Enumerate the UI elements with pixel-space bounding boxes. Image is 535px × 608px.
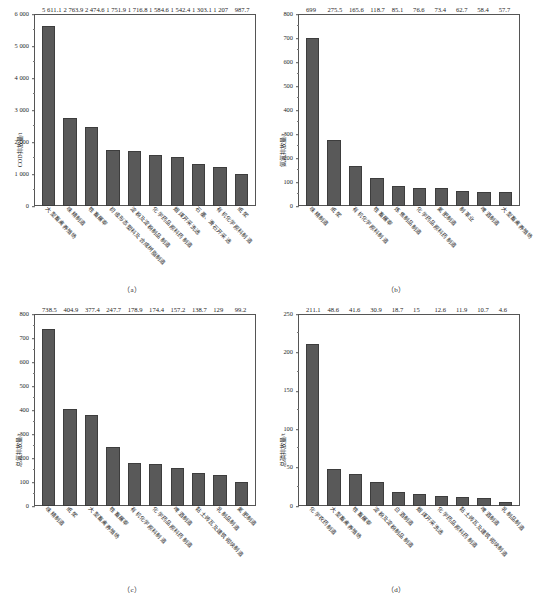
bar-value-label: 11.9 [456, 306, 467, 313]
bar[interactable]: 18.7 [392, 492, 405, 506]
bar-value-label: 1 584.6 [149, 6, 169, 13]
bar-value-label: 73.4 [435, 6, 447, 13]
x-tick-label: 纸浆 [330, 206, 343, 219]
bar[interactable]: 15 [413, 494, 426, 506]
bar-value-label: 118.7 [370, 6, 385, 13]
bar[interactable]: 85.1 [392, 186, 405, 206]
bar[interactable]: 2 763.9 [63, 118, 76, 206]
bar-slot: 41.6 [345, 314, 366, 506]
bar[interactable]: 178.9 [128, 463, 141, 506]
bar[interactable]: 99.2 [235, 482, 248, 506]
bar-slot: 174.4 [145, 314, 166, 506]
x-tick-slot: 啤酒制造 [166, 506, 187, 584]
x-tick-slot: 大型畜禽养殖场 [81, 506, 102, 584]
bar[interactable]: 404.9 [63, 409, 76, 506]
bar[interactable]: 48.6 [327, 469, 340, 506]
bar-value-label: 129 [213, 306, 223, 313]
x-tick-slot: 淀粉及淀粉制品制造 [366, 506, 387, 584]
bar[interactable]: 987.7 [235, 174, 248, 206]
bar[interactable]: 118.7 [370, 178, 383, 206]
x-tick-slot: 啤酒制造 [473, 206, 494, 284]
bar-slot: 85.1 [388, 14, 409, 206]
bar-value-label: 5 611.1 [42, 6, 62, 13]
x-tick-label: 氮肥制造 [237, 506, 258, 527]
bar[interactable]: 76.6 [413, 188, 426, 206]
bar[interactable]: 157.2 [171, 468, 184, 506]
bar[interactable]: 1 716.8 [128, 151, 141, 206]
x-tick-slot: 牲畜屠宰 [81, 206, 102, 284]
panel-a-y-tick: 5 000 [15, 43, 32, 49]
bar[interactable]: 247.7 [106, 447, 119, 506]
bar-value-label: 58.4 [477, 6, 489, 13]
bar[interactable]: 1 303.1 [192, 164, 205, 206]
bar-value-label: 2 763.9 [63, 6, 83, 13]
bar[interactable]: 1 542.4 [171, 157, 184, 206]
bar-slot: 30.9 [366, 314, 387, 506]
x-tick-slot: 化学药品原料药制造 [145, 506, 166, 584]
x-tick-slot: 牲畜屠宰 [366, 206, 387, 284]
x-tick-slot: 味精制造 [38, 506, 59, 584]
bar[interactable]: 5 611.1 [42, 26, 55, 206]
bar[interactable]: 165.6 [349, 166, 362, 206]
bar-slot: 57.7 [495, 14, 516, 206]
bar[interactable]: 1 751.9 [106, 150, 119, 206]
x-tick-slot: 氮肥制造 [231, 506, 252, 584]
x-tick-slot: 大型畜禽养殖场 [38, 206, 59, 284]
panel-b-caption: （b） [264, 284, 528, 294]
panel-b: 氨氮排放量/t 0100200300400500600700800 699275… [264, 0, 528, 300]
panel-c-y-tick: 100 [19, 479, 32, 485]
panel-d-y-tick: 100 [283, 426, 296, 432]
x-tick-slot: 纸浆 [59, 506, 80, 584]
bar[interactable]: 73.4 [435, 188, 448, 206]
bar[interactable]: 62.7 [456, 191, 469, 206]
x-tick-slot: 大型畜禽养殖场 [323, 506, 344, 584]
panel-a-caption: （a） [0, 284, 264, 294]
panel-b-y-tick: 100 [283, 179, 296, 185]
panel-c-y-axis-title: 总氮排放量/t [14, 433, 23, 466]
bar[interactable]: 41.6 [349, 474, 362, 506]
bar-slot: 247.7 [102, 314, 123, 506]
panel-c-y-tick: 600 [19, 359, 32, 365]
x-tick-slot: 有机化学原料制造 [345, 206, 366, 284]
bar[interactable]: 738.5 [42, 329, 55, 506]
bar-value-label: 48.6 [327, 306, 339, 313]
bar[interactable]: 57.7 [499, 192, 512, 206]
panel-c: 总氮排放量/t 0100200300400500600700800 738.54… [0, 300, 264, 600]
bar[interactable]: 30.9 [370, 482, 383, 506]
bar[interactable]: 58.4 [477, 192, 490, 206]
x-tick-label: 大型畜禽养殖场 [501, 206, 534, 240]
bar-slot: 58.4 [473, 14, 494, 206]
x-tick-slot: 石墨、滑石开采选 [188, 206, 209, 284]
x-tick-label: 纸浆 [66, 506, 79, 519]
bar-value-label: 174.4 [149, 306, 164, 313]
bar[interactable]: 1 207 [213, 167, 226, 206]
bar-slot: 165.6 [345, 14, 366, 206]
bar[interactable]: 1 584.6 [149, 155, 162, 206]
bar[interactable]: 129 [213, 475, 226, 506]
bar[interactable]: 211.1 [306, 344, 319, 506]
panel-b-y-tick: 200 [283, 155, 296, 161]
panel-b-y-axis-title: 氨氮排放量/t [278, 133, 287, 166]
bar[interactable]: 138.7 [192, 473, 205, 506]
panel-c-y-tick: 0 [26, 503, 32, 509]
bar[interactable]: 10.7 [477, 498, 490, 506]
bar-slot: 11.9 [452, 314, 473, 506]
bar-value-label: 404.9 [63, 306, 78, 313]
bar-value-label: 157.2 [171, 306, 186, 313]
panel-d-y-tick: 250 [283, 311, 296, 317]
panel-a-y-tick: 6 000 [15, 11, 32, 17]
bar-slot: 178.9 [124, 314, 145, 506]
bar[interactable]: 275.5 [327, 140, 340, 206]
bar[interactable]: 699 [306, 38, 319, 206]
x-tick-slot: 啤酒制造 [473, 506, 494, 584]
bar[interactable]: 12.6 [435, 496, 448, 506]
bar-value-label: 165.6 [349, 6, 364, 13]
x-tick-slot: 大型畜禽养殖场 [495, 206, 516, 284]
bar[interactable]: 2 474.6 [85, 127, 98, 206]
panel-a-y-tick: 2 000 [15, 139, 32, 145]
bar[interactable]: 377.4 [85, 415, 98, 506]
panel-b-y-tick: 400 [283, 107, 296, 113]
bar[interactable]: 174.4 [149, 464, 162, 506]
panel-b-x-ticks: 味精制造纸浆有机化学原料制造牲畜屠宰炼焦制品制造化学药品原料药制造氮肥制造制革业… [298, 206, 520, 284]
